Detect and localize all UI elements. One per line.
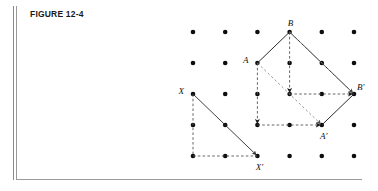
lattice-dot	[191, 61, 196, 66]
lattice-dot	[320, 154, 325, 159]
point-label-xp: X'	[256, 162, 263, 172]
vector-A-to-Aprime	[257, 63, 320, 124]
lattice-dot	[223, 92, 228, 97]
lattice-dot	[352, 61, 357, 66]
translation-vectors	[193, 32, 353, 155]
point-label-x: X	[179, 86, 185, 96]
lattice-dot	[287, 154, 292, 159]
lattice-dot	[320, 30, 325, 35]
point-label-bp: B'	[357, 82, 364, 92]
lattice-dot	[352, 123, 357, 128]
lattice-dot	[191, 30, 196, 35]
lattice-dot	[255, 30, 260, 35]
point-label-ap: A'	[320, 131, 327, 141]
segment-A-B	[257, 32, 289, 63]
figure-panel: FIGURE 12-4 ABA'B'XX'	[0, 0, 378, 191]
vector-X-to-Xprime	[193, 94, 256, 155]
solid-figure-lines	[257, 32, 354, 125]
lattice-dot	[223, 61, 228, 66]
lattice-dot	[223, 30, 228, 35]
lattice-dot-grid	[191, 30, 357, 159]
lattice-dot	[352, 154, 357, 159]
point-label-b: B	[288, 18, 294, 28]
point-label-a: A	[243, 55, 249, 65]
lattice-dot	[352, 30, 357, 35]
segment-Aprime-Bprime	[322, 94, 354, 125]
translation-diagram	[0, 0, 378, 191]
